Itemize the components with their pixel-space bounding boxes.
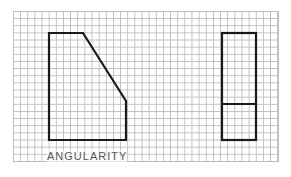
diagram-label: ANGULARITY [47, 150, 127, 162]
angled-front-view-outline [49, 33, 126, 140]
drawing-canvas [0, 0, 291, 177]
side-view-outline [222, 33, 256, 140]
